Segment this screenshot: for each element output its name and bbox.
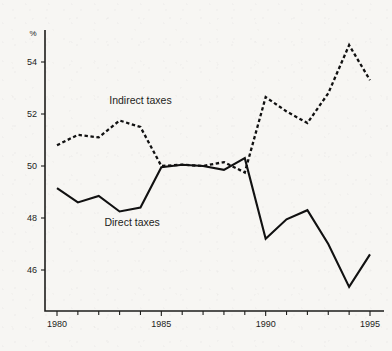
series-label-direct-taxes: Direct taxes	[104, 216, 159, 228]
chart-plot-area: %54525048461980198519901995Indirect taxe…	[0, 0, 392, 351]
y-axis-tick-label: 46	[27, 265, 37, 275]
y-axis-tick-label: 52	[27, 109, 37, 119]
tax-share-line-chart: %54525048461980198519901995Indirect taxe…	[0, 0, 392, 351]
y-axis-tick-label: 48	[27, 213, 37, 223]
series-label-indirect-taxes: Indirect taxes	[109, 94, 171, 106]
chart-axes	[45, 30, 384, 311]
x-axis-tick-label: 1980	[47, 319, 67, 329]
y-axis-tick-label: 54	[27, 57, 37, 67]
y-axis-unit-label: %	[29, 29, 36, 38]
series-line-indirect-taxes	[57, 45, 370, 172]
x-axis-tick-label: 1985	[151, 319, 171, 329]
x-axis-tick-label: 1995	[360, 319, 380, 329]
x-axis-tick-label: 1990	[256, 319, 276, 329]
y-axis-tick-label: 50	[27, 161, 37, 171]
